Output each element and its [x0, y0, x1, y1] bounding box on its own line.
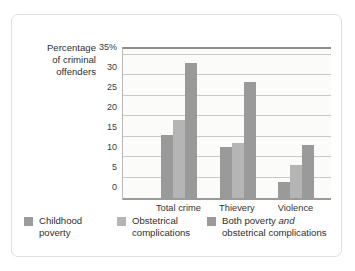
- y-axis-tick-label: 20: [107, 102, 117, 112]
- bar: [278, 182, 290, 198]
- y-axis-tick-label: 0: [112, 182, 117, 192]
- bar: [220, 147, 232, 198]
- bar: [232, 143, 244, 198]
- bar: [185, 63, 197, 198]
- legend-swatch-icon: [117, 217, 126, 226]
- legend-label-line-2: poverty: [39, 227, 70, 238]
- y-axis-tick-label: 35%: [99, 42, 117, 52]
- legend-label-line-1: Childhood: [39, 215, 82, 226]
- y-axis-title-line-3: offenders: [18, 66, 96, 78]
- y-axis-title-line-1: Percentage: [18, 42, 96, 54]
- bar-group: [215, 55, 261, 198]
- y-axis-tick-label: 30: [107, 62, 117, 72]
- legend-label: Obstetricalcomplications: [132, 215, 190, 240]
- bar-group: [156, 55, 202, 198]
- bar: [173, 120, 185, 198]
- y-axis-tick-label: 5: [112, 162, 117, 172]
- legend-label-line-2: obstetrical complications: [222, 227, 327, 238]
- chart-figure: Percentage of criminal offenders 35%3025…: [11, 14, 342, 257]
- bar: [161, 135, 173, 198]
- chart-legend: Childhoodpoverty Obstetricalcomplication…: [12, 215, 343, 258]
- bar: [290, 165, 302, 198]
- legend-label-line-2: complications: [132, 227, 190, 238]
- y-axis-tick-label: 10: [107, 142, 117, 152]
- y-axis-tick-label: 15: [107, 122, 117, 132]
- legend-label-line-1-emphasis: and: [279, 215, 295, 226]
- y-axis-tick-label: 25: [107, 82, 117, 92]
- legend-swatch-icon: [207, 217, 216, 226]
- bar-group: [273, 55, 319, 198]
- legend-label-line-1-text: Both poverty: [222, 215, 279, 226]
- y-axis-title: Percentage of criminal offenders: [18, 42, 96, 79]
- legend-swatch-icon: [24, 217, 33, 226]
- legend-label: Both poverty andobstetrical complication…: [222, 215, 327, 240]
- x-axis-tick-label: Violence: [250, 203, 340, 213]
- bar-chart: Percentage of criminal offenders 35%3025…: [12, 15, 343, 195]
- bar: [244, 82, 256, 198]
- bar: [302, 145, 314, 198]
- legend-label: Childhoodpoverty: [39, 215, 82, 240]
- legend-item-childhood-poverty: Childhoodpoverty: [24, 215, 124, 240]
- legend-item-both-poverty-and-obstetrical-complications: Both poverty andobstetrical complication…: [207, 215, 342, 240]
- plot-area: [122, 47, 331, 200]
- y-axis-title-line-2: of criminal: [18, 54, 96, 66]
- legend-label-line-1: Obstetrical: [132, 215, 178, 226]
- y-axis-ticks: 35%302520151050: [88, 41, 121, 187]
- x-axis-line: [123, 198, 331, 200]
